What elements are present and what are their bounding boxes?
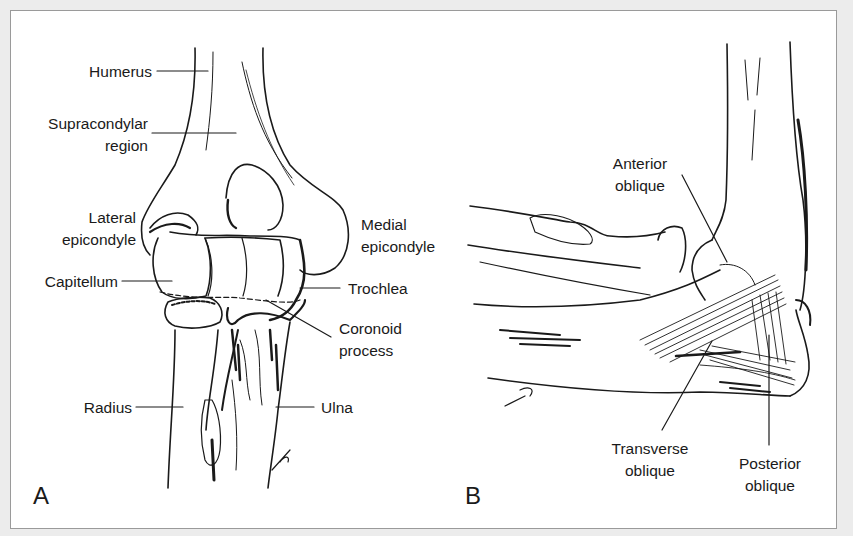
label-anterior-oblique-line2: oblique xyxy=(600,176,680,195)
panel-b-drawing xyxy=(468,42,810,445)
label-supracondylar-line1: Supracondylar xyxy=(20,114,148,133)
label-coronoid-process-line1: Coronoid xyxy=(339,319,402,338)
label-posterior-oblique-line1: Posterior xyxy=(728,454,812,473)
label-ulna: Ulna xyxy=(321,398,353,417)
label-anterior-oblique-line1: Anterior xyxy=(600,154,680,173)
label-coronoid-process-line2: process xyxy=(339,341,393,360)
label-medial-epicondyle-line2: epicondyle xyxy=(361,237,435,256)
panel-letter-b: B xyxy=(465,483,481,509)
label-transverse-oblique-line1: Transverse xyxy=(600,439,700,458)
label-posterior-oblique-line2: oblique xyxy=(728,476,812,495)
label-supracondylar-line2: region xyxy=(20,136,148,155)
label-radius: Radius xyxy=(40,398,132,417)
panel-a-drawing xyxy=(122,48,348,488)
label-trochlea: Trochlea xyxy=(348,279,408,298)
label-humerus: Humerus xyxy=(60,62,152,81)
label-lateral-epicondyle-line2: epicondyle xyxy=(40,230,136,249)
label-lateral-epicondyle-line1: Lateral xyxy=(40,208,136,227)
label-capitellum: Capitellum xyxy=(20,272,118,291)
label-medial-epicondyle-line1: Medial xyxy=(361,215,407,234)
panel-letter-a: A xyxy=(33,483,49,509)
label-transverse-oblique-line2: oblique xyxy=(600,461,700,480)
